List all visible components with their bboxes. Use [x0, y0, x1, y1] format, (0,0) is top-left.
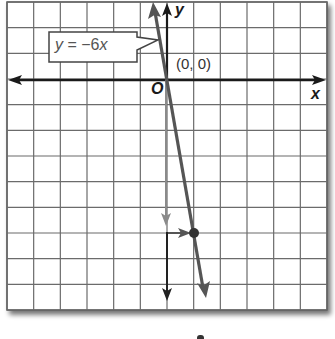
equation-operator: = −6	[63, 36, 99, 53]
cropped-caption-glyph	[197, 335, 204, 339]
equation-label: y = −6x	[55, 37, 107, 53]
x-axis-label: x	[311, 86, 320, 102]
y-axis-label: y	[175, 2, 184, 18]
plotted-point	[189, 228, 199, 238]
origin-label: O	[151, 81, 163, 97]
origin-point-label: (0, 0)	[176, 56, 211, 71]
equation-x-var: x	[99, 36, 107, 53]
equation-y-var: y	[55, 36, 63, 53]
